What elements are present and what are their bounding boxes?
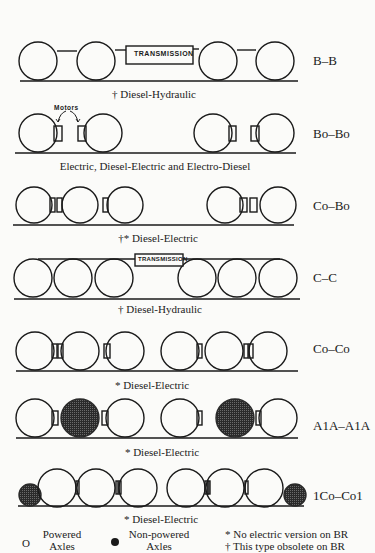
row-1co-co1 — [18, 469, 306, 507]
motor — [54, 126, 62, 141]
footnote-obsolete: † This type obsolete on BR — [225, 540, 348, 552]
transmission-label: TRANSMISSION — [138, 256, 188, 262]
code-co-bo: Co–Bo — [313, 198, 350, 214]
code-1co-co1: 1Co–Co1 — [313, 488, 363, 504]
code-bo-bo: Bo–Bo — [313, 126, 350, 142]
row-co-co — [16, 332, 298, 371]
non-powered-axle — [61, 399, 99, 437]
powered-line2: Axles — [42, 540, 82, 552]
caption-co-bo: †* Diesel-Electric — [118, 232, 198, 244]
footnote-no-electric: * No electric version on BR — [225, 528, 348, 540]
code-c-c: C–C — [313, 270, 337, 286]
code-co-co: Co–Co — [313, 341, 350, 357]
powered-legend-icon: O — [22, 537, 30, 549]
row-a1a-a1a — [16, 399, 298, 438]
nonpowered-line1: Non-powered — [124, 528, 194, 540]
motor — [251, 126, 259, 141]
nonpowered-line2: Axles — [124, 540, 194, 552]
transmission-label: TRANSMISSION — [134, 50, 194, 57]
caption-co-co: * Diesel-Electric — [115, 379, 189, 391]
caption-bo-bo: Electric, Diesel-Electric and Electro-Di… — [60, 160, 251, 172]
code-b-b: B–B — [313, 53, 337, 69]
powered-axle — [77, 42, 115, 80]
non-powered-axle — [284, 484, 306, 506]
non-powered-axle — [216, 399, 254, 437]
motors-label: Motors — [54, 104, 79, 111]
powered-line1: Powered — [42, 528, 82, 540]
powered-legend-label: Powered Axles — [42, 528, 82, 552]
caption-b-b: † Diesel-Hydraulic — [112, 88, 196, 100]
powered-axle — [19, 42, 57, 80]
code-a1a-a1a: A1A–A1A — [313, 418, 370, 434]
row-co-bo — [13, 187, 296, 225]
nonpowered-legend-label: Non-powered Axles — [124, 528, 194, 552]
powered-axle — [256, 42, 294, 80]
caption-a1a-a1a: * Diesel-Electric — [125, 446, 199, 458]
caption-c-c: † Diesel-Hydraulic — [118, 303, 202, 315]
footnotes: * No electric version on BR † This type … — [225, 528, 348, 552]
non-powered-legend-icon — [111, 538, 119, 546]
row-bo-bo — [15, 111, 296, 153]
row-b-b — [19, 42, 298, 81]
powered-axle — [199, 42, 237, 80]
caption-1co-co1: * Diesel-Electric — [124, 513, 198, 525]
